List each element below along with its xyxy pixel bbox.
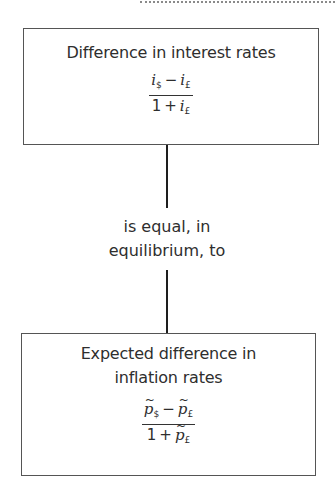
equilibrium-relation-label: is equal, in equilibrium, to [60, 215, 274, 263]
formula-numerator: i$−i£ [149, 71, 193, 96]
minus-operator: − [162, 71, 181, 89]
constant-one: 1 [152, 97, 162, 115]
inflation-rate-difference-formula: ~p$−~p£ 1+~p£ [142, 400, 195, 449]
formula-denominator: 1+i£ [149, 96, 193, 120]
var-p: p [175, 426, 185, 444]
sub-pound: £ [184, 435, 190, 445]
connector-line-upper [166, 145, 168, 208]
formula-numerator: ~p$−~p£ [142, 400, 195, 425]
inflation-title-line-2: inflation rates [22, 366, 315, 390]
var-i: i [151, 71, 156, 89]
interest-rate-difference-box: Difference in interest rates i$−i£ 1+i£ [23, 28, 319, 145]
plus-operator: + [156, 426, 175, 444]
plus-operator: + [161, 97, 180, 115]
sub-pound: £ [187, 409, 193, 419]
var-p: p [178, 400, 188, 418]
expected-p-pound: ~p [178, 400, 188, 418]
inflation-title-line-1: Expected difference in [22, 342, 315, 366]
minus-operator: − [159, 400, 178, 418]
var-i: i [180, 71, 185, 89]
relation-label-line-1: is equal, in [60, 215, 274, 239]
var-p: p [144, 400, 154, 418]
inflation-rate-difference-title: Expected difference in inflation rates [22, 342, 315, 390]
sub-pound: £ [185, 80, 191, 90]
page-edge-dotted-rule [140, 1, 335, 3]
relation-label-line-2: equilibrium, to [60, 239, 274, 263]
sub-dollar: $ [156, 80, 162, 90]
constant-one: 1 [147, 426, 157, 444]
expected-p-pound: ~p [175, 426, 185, 444]
var-i: i [180, 97, 185, 115]
inflation-rate-difference-box: Expected difference in inflation rates ~… [21, 333, 316, 476]
interest-rate-difference-formula: i$−i£ 1+i£ [149, 71, 193, 120]
interest-rate-difference-title: Difference in interest rates [24, 41, 318, 65]
connector-line-lower [166, 270, 168, 333]
formula-denominator: 1+~p£ [142, 425, 195, 449]
expected-p-dollar: ~p [144, 400, 154, 418]
sub-pound: £ [185, 106, 191, 116]
